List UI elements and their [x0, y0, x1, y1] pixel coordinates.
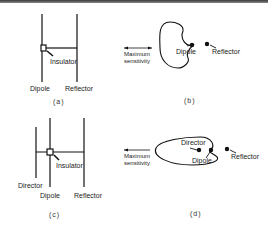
reflector-point-d — [225, 147, 228, 150]
cardioid-pattern-b — [160, 22, 193, 68]
max-sensitivity-label-d: Maximum sensitivity — [124, 153, 150, 167]
caption-c: (c) — [49, 211, 60, 218]
insulator-a — [41, 45, 46, 51]
reflector-label-a: Reflector — [65, 85, 93, 93]
insulator-label-c: Insulator — [56, 162, 83, 170]
insulator-pointer-c — [54, 155, 59, 160]
caption-a: (a) — [53, 98, 65, 105]
reflector-label-b: Reflector — [212, 48, 240, 56]
max-sensitivity-label-b: Maximum sensitivity — [124, 51, 150, 65]
insulator-label-a: Insulator — [50, 58, 77, 66]
reflector-label-d: Reflector — [231, 153, 259, 161]
director-label-c: Director — [18, 182, 43, 190]
dipole-label-d: Dipole — [192, 157, 212, 165]
reflector-label-c: Reflector — [74, 192, 102, 200]
dipole-point-d — [209, 148, 212, 151]
dipole-label-b: Dipole — [176, 48, 196, 56]
insulator-pointer-a — [47, 51, 53, 56]
dipole-label-c: Dipole — [40, 192, 60, 200]
reflector-point-b — [205, 42, 208, 45]
dipole-label-a: Dipole — [30, 85, 50, 93]
insulator-c — [47, 149, 53, 155]
director-label-d: Director — [181, 139, 206, 147]
caption-d: (d) — [190, 210, 202, 217]
caption-b: (b) — [184, 97, 196, 104]
director-point-d — [197, 148, 200, 151]
